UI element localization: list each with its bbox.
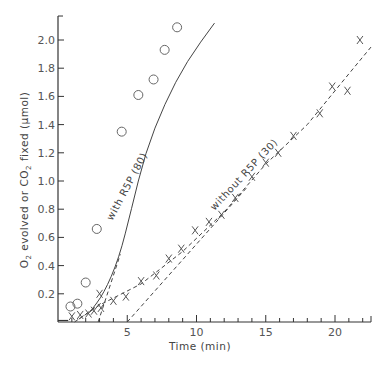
data-marks <box>66 23 363 321</box>
y-tick-label: 0.4 <box>38 260 56 273</box>
x-tick-label: 15 <box>259 326 273 339</box>
line-without-r5p-tangent <box>127 188 246 322</box>
cross-point <box>166 255 172 263</box>
y-tick-label: 1.6 <box>38 90 56 103</box>
y-label-part: fixed (µmol) <box>18 92 30 165</box>
cross-point <box>110 297 116 305</box>
y-tick-label: 1.4 <box>38 119 56 132</box>
cross-point <box>123 293 129 301</box>
x-tick-label: 20 <box>328 326 342 339</box>
cross-point <box>290 132 296 140</box>
y-axis-label: O2 evolved or CO2 fixed (µmol) <box>18 92 33 269</box>
y-tick-label: 0.6 <box>38 231 56 244</box>
line-annotation: without R5P (30) <box>208 136 280 212</box>
y-tick-label: 1.0 <box>38 175 56 188</box>
cross-point <box>317 109 323 117</box>
chart: 0.20.40.60.81.01.21.41.61.82.0 5101520 w… <box>0 0 391 367</box>
cross-point <box>357 36 363 44</box>
circle-point <box>81 278 90 287</box>
circle-point <box>173 23 182 32</box>
y-tick-label: 0.2 <box>38 288 56 301</box>
cross-point <box>206 218 212 226</box>
line-annotation: with R5P (80) <box>104 151 149 223</box>
cross-point <box>218 211 224 219</box>
x-ticks: 5101520 <box>72 315 363 339</box>
y-label-part: O <box>18 260 30 269</box>
cross-point <box>329 83 335 91</box>
cross-point <box>153 271 159 279</box>
x-tick-label: 5 <box>124 326 131 339</box>
cross-point <box>97 290 103 298</box>
cross-point <box>344 87 350 95</box>
y-ticks: 0.20.40.60.81.01.21.41.61.82.0 <box>38 34 65 301</box>
line-with-r5p-80 <box>90 23 215 312</box>
y-tick-label: 2.0 <box>38 34 56 47</box>
circle-point <box>160 45 169 54</box>
lines <box>75 23 371 322</box>
axes <box>58 16 371 322</box>
circle-point <box>149 75 158 84</box>
circle-point <box>117 127 126 136</box>
line-with-r5p-tangent <box>98 254 120 322</box>
cross-point <box>275 149 281 157</box>
x-tick-label: 10 <box>190 326 204 339</box>
y-tick-label: 1.8 <box>38 62 56 75</box>
cross-point <box>192 226 198 234</box>
circle-point <box>134 90 143 99</box>
y-tick-label: 1.2 <box>38 147 56 160</box>
y-label-part: evolved or CO <box>18 170 30 255</box>
circle-point <box>92 224 101 233</box>
cross-point <box>178 245 184 253</box>
x-axis-label: Time (min) <box>168 340 231 352</box>
y-tick-label: 0.8 <box>38 203 56 216</box>
